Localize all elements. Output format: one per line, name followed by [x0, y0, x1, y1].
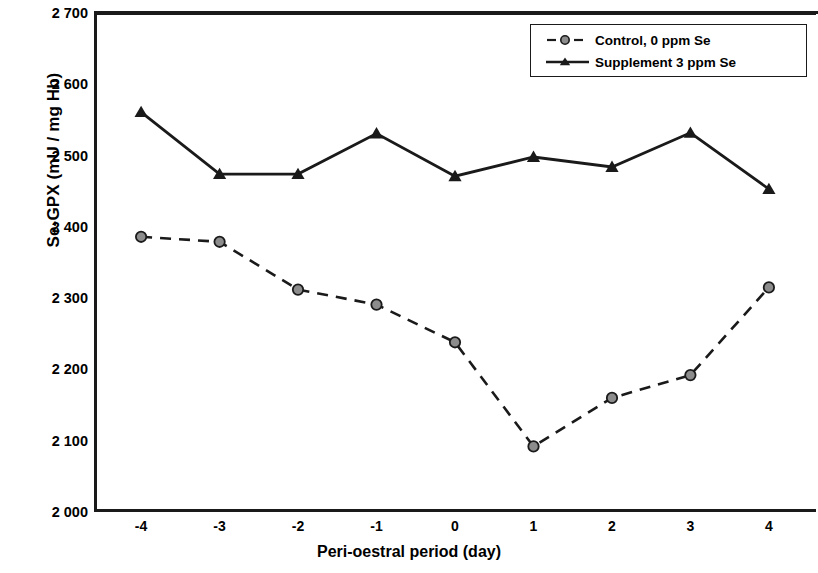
x-axis-tick-label: 3 [670, 518, 710, 534]
x-axis-tick-label: -1 [357, 518, 397, 534]
legend-label-control: Control, 0 ppm Se [595, 33, 711, 48]
legend: Control, 0 ppm Se Supplement 3 ppm Se [530, 24, 807, 77]
legend-key-solid-triangle-icon [545, 53, 593, 71]
data-point-circle-marker [764, 282, 774, 292]
x-axis-tick-label: 4 [749, 518, 789, 534]
series-control [136, 232, 774, 452]
legend-item-supplement: Supplement 3 ppm Se [545, 51, 806, 73]
x-axis-tick-label: 1 [513, 518, 553, 534]
data-point-triangle-marker [135, 106, 148, 117]
data-point-circle-marker [450, 337, 460, 347]
x-axis-tick-label: 0 [435, 518, 475, 534]
data-point-circle-marker [685, 370, 695, 380]
legend-key-dashed-circle-icon [545, 31, 593, 49]
line-chart: Se-GPX (mU / mg Hb) 2 0002 1002 2002 300… [0, 0, 818, 573]
data-point-circle-marker [607, 393, 617, 403]
x-axis-tick-label: -4 [121, 518, 161, 534]
data-point-circle-marker [214, 237, 224, 247]
x-axis-title: Peri-oestral period (day) [0, 543, 818, 561]
x-axis-tick-label: -2 [278, 518, 318, 534]
x-axis-tick-label: -3 [200, 518, 240, 534]
legend-item-control: Control, 0 ppm Se [545, 29, 806, 51]
data-series-layer [0, 0, 818, 573]
legend-label-supplement: Supplement 3 ppm Se [595, 55, 736, 70]
x-axis-tick-label: 2 [592, 518, 632, 534]
series-supplement [135, 106, 776, 194]
data-point-circle-marker [136, 232, 146, 242]
data-point-triangle-marker [370, 127, 383, 138]
data-point-circle-marker [371, 299, 381, 309]
data-point-triangle-marker [684, 126, 697, 137]
data-point-circle-marker [528, 441, 538, 451]
data-point-circle-marker [293, 284, 303, 294]
